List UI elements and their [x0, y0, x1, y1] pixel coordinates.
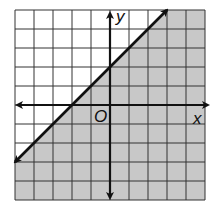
origin-label: O	[94, 107, 107, 126]
y-axis-label: y	[115, 7, 126, 26]
x-axis-label: x	[192, 109, 202, 128]
coordinate-plane: y x O	[0, 0, 213, 207]
